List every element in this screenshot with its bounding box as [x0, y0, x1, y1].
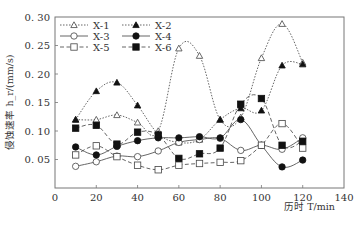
data-point-x-3: [93, 159, 99, 165]
data-point-x-5: [196, 160, 202, 166]
y-tick-label: 0. 30: [25, 12, 50, 23]
x-tick-label: 100: [252, 192, 271, 203]
series-line-x-1: [76, 24, 303, 136]
data-point-x-1: [93, 116, 99, 122]
data-point-x-6: [258, 95, 264, 101]
data-point-x-5: [258, 142, 264, 148]
legend-label: X-6: [155, 42, 172, 53]
data-point-x-6: [238, 101, 244, 107]
series-line-x-4: [76, 120, 303, 168]
data-point-x-4: [93, 152, 99, 158]
legend-label: X-2: [155, 20, 172, 31]
chart-canvas: 020406080100120140 0. 050. 100. 150. 200…: [0, 0, 361, 226]
data-point-x-2: [217, 116, 223, 122]
y-tick-label: 0. 05: [25, 154, 50, 165]
x-axis-label: 历时 T/min: [284, 201, 335, 212]
legend-item-x-6: X-6: [122, 42, 172, 53]
legend-label: X-3: [93, 31, 110, 42]
legend-item-x-1: X-1: [60, 20, 110, 31]
legend-label: X-1: [93, 20, 110, 31]
x-tick-label: 0: [52, 192, 58, 203]
data-point-x-6: [72, 125, 78, 131]
data-point-x-5: [176, 162, 182, 168]
legend-item-x-4: X-4: [122, 31, 172, 42]
data-point-x-5: [238, 157, 244, 163]
y-tick-label: 0. 25: [25, 40, 50, 51]
legend-item-x-3: X-3: [60, 31, 110, 42]
data-point-x-4: [300, 157, 306, 163]
data-point-x-1: [176, 45, 182, 51]
data-point-x-1: [258, 55, 264, 61]
data-point-x-6: [93, 122, 99, 128]
data-point-x-4: [217, 135, 223, 141]
data-point-x-5: [279, 120, 285, 126]
data-point-x-4: [279, 164, 285, 170]
y-tick-label: 0. 10: [25, 126, 50, 137]
y-axis: 0. 050. 100. 150. 200. 250. 30: [25, 12, 58, 166]
data-point-x-1: [134, 119, 140, 125]
data-point-x-2: [93, 88, 99, 94]
data-point-x-2: [279, 62, 285, 68]
data-point-x-6: [155, 132, 161, 138]
y-tick-label: 0. 15: [25, 97, 50, 108]
legend-label: X-5: [93, 42, 110, 53]
legend-marker-icon: [71, 33, 77, 39]
data-point-x-6: [217, 145, 223, 151]
x-tick-label: 20: [90, 192, 103, 203]
x-tick-label: 140: [334, 192, 353, 203]
data-point-x-1: [279, 21, 285, 27]
legend-item-x-2: X-2: [122, 20, 172, 31]
data-point-x-6: [279, 142, 285, 148]
data-point-x-4: [196, 134, 202, 140]
legend-marker-icon: [71, 44, 77, 50]
data-point-x-2: [134, 102, 140, 108]
data-point-x-3: [238, 147, 244, 153]
legend-item-x-5: X-5: [60, 42, 110, 53]
series-line-x-3: [76, 138, 303, 167]
data-point-x-4: [238, 116, 244, 122]
data-point-x-5: [114, 153, 120, 159]
data-point-x-4: [72, 144, 78, 150]
line-chart: 020406080100120140 0. 050. 100. 150. 200…: [0, 0, 361, 226]
data-point-x-5: [155, 167, 161, 173]
data-point-x-2: [72, 116, 78, 122]
data-point-x-5: [217, 159, 223, 165]
y-tick-label: 0. 20: [25, 69, 50, 80]
data-point-x-5: [93, 143, 99, 149]
legend-marker-icon: [133, 33, 139, 39]
data-point-x-5: [300, 145, 306, 151]
legend-label: X-4: [155, 31, 172, 42]
data-point-x-3: [134, 153, 140, 159]
data-point-x-6: [134, 129, 140, 135]
data-point-x-3: [155, 148, 161, 154]
data-point-x-6: [196, 151, 202, 157]
data-point-x-6: [300, 138, 306, 144]
plot-series-group: [76, 24, 303, 170]
data-point-x-5: [72, 152, 78, 158]
data-point-x-2: [114, 79, 120, 85]
x-tick-label: 60: [172, 192, 185, 203]
data-point-x-6: [114, 141, 120, 147]
legend: X-1X-2X-3X-4X-5X-6: [60, 20, 172, 53]
data-point-x-5: [134, 162, 140, 168]
series-line-x-2: [76, 61, 303, 143]
data-point-x-4: [176, 135, 182, 141]
data-point-x-3: [72, 163, 78, 169]
x-tick-label: 40: [131, 192, 144, 203]
y-axis-label: 侵蚀速率 h_r/(mm/s): [4, 54, 16, 149]
x-tick-label: 80: [214, 192, 227, 203]
data-point-x-6: [176, 155, 182, 161]
data-point-x-1: [196, 53, 202, 59]
data-point-x-4: [134, 137, 140, 143]
legend-marker-icon: [133, 44, 139, 50]
